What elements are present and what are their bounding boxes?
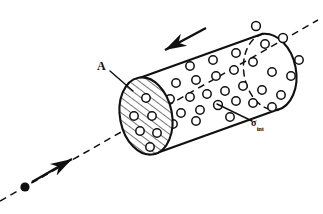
target-particle xyxy=(268,68,276,76)
figure-canvas xyxy=(0,0,323,214)
sigma-symbol: σ xyxy=(251,117,256,128)
target-particle xyxy=(249,58,257,66)
target-particle xyxy=(196,106,204,114)
area-label: A xyxy=(97,60,106,72)
target-particle xyxy=(277,91,285,99)
target-particle xyxy=(287,72,295,80)
target-particle-on-disk xyxy=(142,94,150,102)
target-particle xyxy=(177,109,185,117)
target-particle xyxy=(232,97,240,105)
target-particle xyxy=(226,113,234,121)
target-particle xyxy=(232,49,240,57)
target-particle xyxy=(239,82,247,90)
physics-cross-section-figure: A σint xyxy=(0,0,323,214)
cross-section-label: σint xyxy=(251,118,263,131)
target-particle xyxy=(192,76,200,84)
target-particle xyxy=(186,62,194,70)
target-particle xyxy=(230,66,238,74)
target-particle xyxy=(268,103,276,111)
target-particle xyxy=(203,90,211,98)
target-particle xyxy=(249,99,257,107)
target-particle xyxy=(172,79,180,87)
target-particle xyxy=(221,87,229,95)
target-particle xyxy=(279,34,288,43)
target-particle xyxy=(212,72,220,80)
target-particle xyxy=(258,86,266,94)
target-particle xyxy=(192,117,200,125)
sigma-subscript: int xyxy=(257,125,264,132)
target-particle-on-disk xyxy=(136,127,144,135)
incident-direction-arrow xyxy=(32,159,72,182)
target-particle xyxy=(261,40,269,48)
target-particle xyxy=(295,56,303,64)
target-particle xyxy=(186,93,194,101)
target-particle-on-disk xyxy=(130,112,138,120)
incident-particle-dot xyxy=(20,182,29,191)
target-particle-on-disk xyxy=(153,129,161,137)
target-particle-on-disk xyxy=(146,143,154,151)
target-particle xyxy=(209,56,217,64)
target-particle xyxy=(252,22,261,31)
cylinder-length-arrow xyxy=(165,28,206,50)
target-particle-on-disk xyxy=(148,112,156,120)
